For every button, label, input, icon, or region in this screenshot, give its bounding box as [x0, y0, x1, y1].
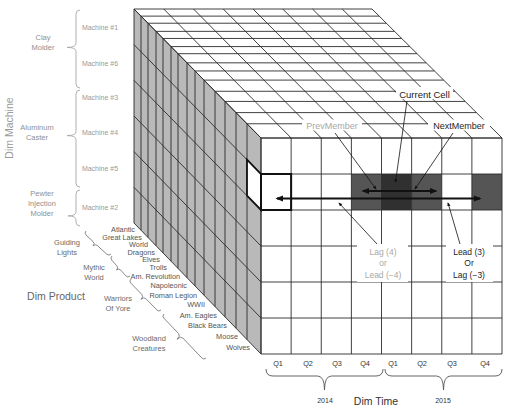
machine-group-brace — [68, 190, 80, 226]
machine-group-label: Clay — [35, 33, 50, 42]
machine-group-label: Molder — [31, 209, 54, 218]
machine-group-brace — [67, 10, 80, 88]
product-group-label: Of Yore — [105, 304, 130, 313]
quarter-label: Q3 — [447, 359, 457, 368]
year-brace — [266, 369, 383, 390]
product-group-label: World — [84, 273, 103, 282]
year-label: 2014 — [317, 397, 333, 404]
quarter-label: Q4 — [480, 359, 490, 368]
diagram-canvas: Dim Machine Clay Molder Aluminum Caster … — [0, 0, 506, 414]
machine-group-label: Injection — [28, 199, 56, 208]
machine-group-brace — [67, 90, 80, 187]
related-cell — [472, 174, 502, 210]
current-cell-label: Current Cell — [399, 89, 450, 100]
quarter-label: Q4 — [360, 359, 370, 368]
next-member-label: NextMember — [433, 121, 485, 131]
quarter-label: Q3 — [332, 359, 342, 368]
dim-machine-axis: Dim Machine Clay Molder Aluminum Caster … — [3, 24, 118, 219]
product-group-label: Lights — [57, 248, 77, 257]
dim-machine-title: Dim Machine — [3, 97, 15, 158]
lead-label: Or — [464, 258, 474, 268]
machine-group-label: Aluminum — [20, 123, 53, 132]
machine-label: Machine #4 — [82, 129, 118, 136]
current-cell — [382, 174, 412, 210]
year-brace — [385, 369, 502, 390]
dim-product-title: Dim Product — [27, 290, 85, 302]
lag-label: Lag (4) — [370, 247, 397, 257]
product-label: Wolves — [226, 343, 250, 352]
machine-group-label: Pewter — [30, 189, 54, 198]
machine-label: Machine #1 — [82, 24, 118, 31]
dim-time-axis: Q1 Q2 Q3 Q4 Q1 Q2 Q3 Q4 2014 2015 Dim Ti… — [273, 359, 490, 407]
machine-label: Machine #2 — [82, 204, 118, 211]
machine-label: Machine #5 — [82, 165, 118, 172]
olap-cube-diagram: Dim Machine Clay Molder Aluminum Caster … — [0, 0, 506, 414]
product-group-label: Warriors — [104, 294, 132, 303]
lead-label: Lag (−3) — [453, 270, 485, 280]
quarter-label: Q1 — [273, 359, 283, 368]
quarter-label: Q1 — [388, 359, 398, 368]
product-label: Black Bears — [188, 321, 227, 330]
machine-label: Machine #3 — [82, 94, 118, 101]
product-group-label: Woodland — [132, 334, 166, 343]
lag-label: Lead (−4) — [365, 270, 402, 280]
product-label: Am. Eagles — [180, 311, 218, 320]
product-group-label: Creatures — [133, 344, 166, 353]
related-cell — [412, 174, 442, 210]
year-label: 2015 — [435, 397, 451, 404]
product-label: WWII — [187, 300, 205, 309]
quarter-label: Q2 — [417, 359, 427, 368]
product-group-label: Mythic — [83, 263, 105, 272]
dim-time-title: Dim Time — [354, 395, 398, 407]
related-cell — [351, 174, 381, 210]
machine-group-label: Molder — [32, 43, 55, 52]
prev-member-label: PrevMember — [306, 121, 358, 131]
product-label: Napoleonic — [150, 281, 187, 290]
product-group-brace — [111, 256, 130, 277]
product-label: Am. Revolution — [131, 272, 180, 281]
machine-group-label: Caster — [26, 133, 49, 142]
product-group-label: Guiding — [54, 238, 80, 247]
lag-label: or — [379, 258, 387, 268]
quarter-label: Q2 — [303, 359, 313, 368]
lead-label: Lead (3) — [453, 247, 485, 257]
machine-label: Machine #6 — [82, 60, 118, 67]
product-label: Roman Legion — [150, 291, 197, 300]
product-label: Trolls — [149, 263, 167, 272]
product-label: Moose — [216, 332, 238, 341]
